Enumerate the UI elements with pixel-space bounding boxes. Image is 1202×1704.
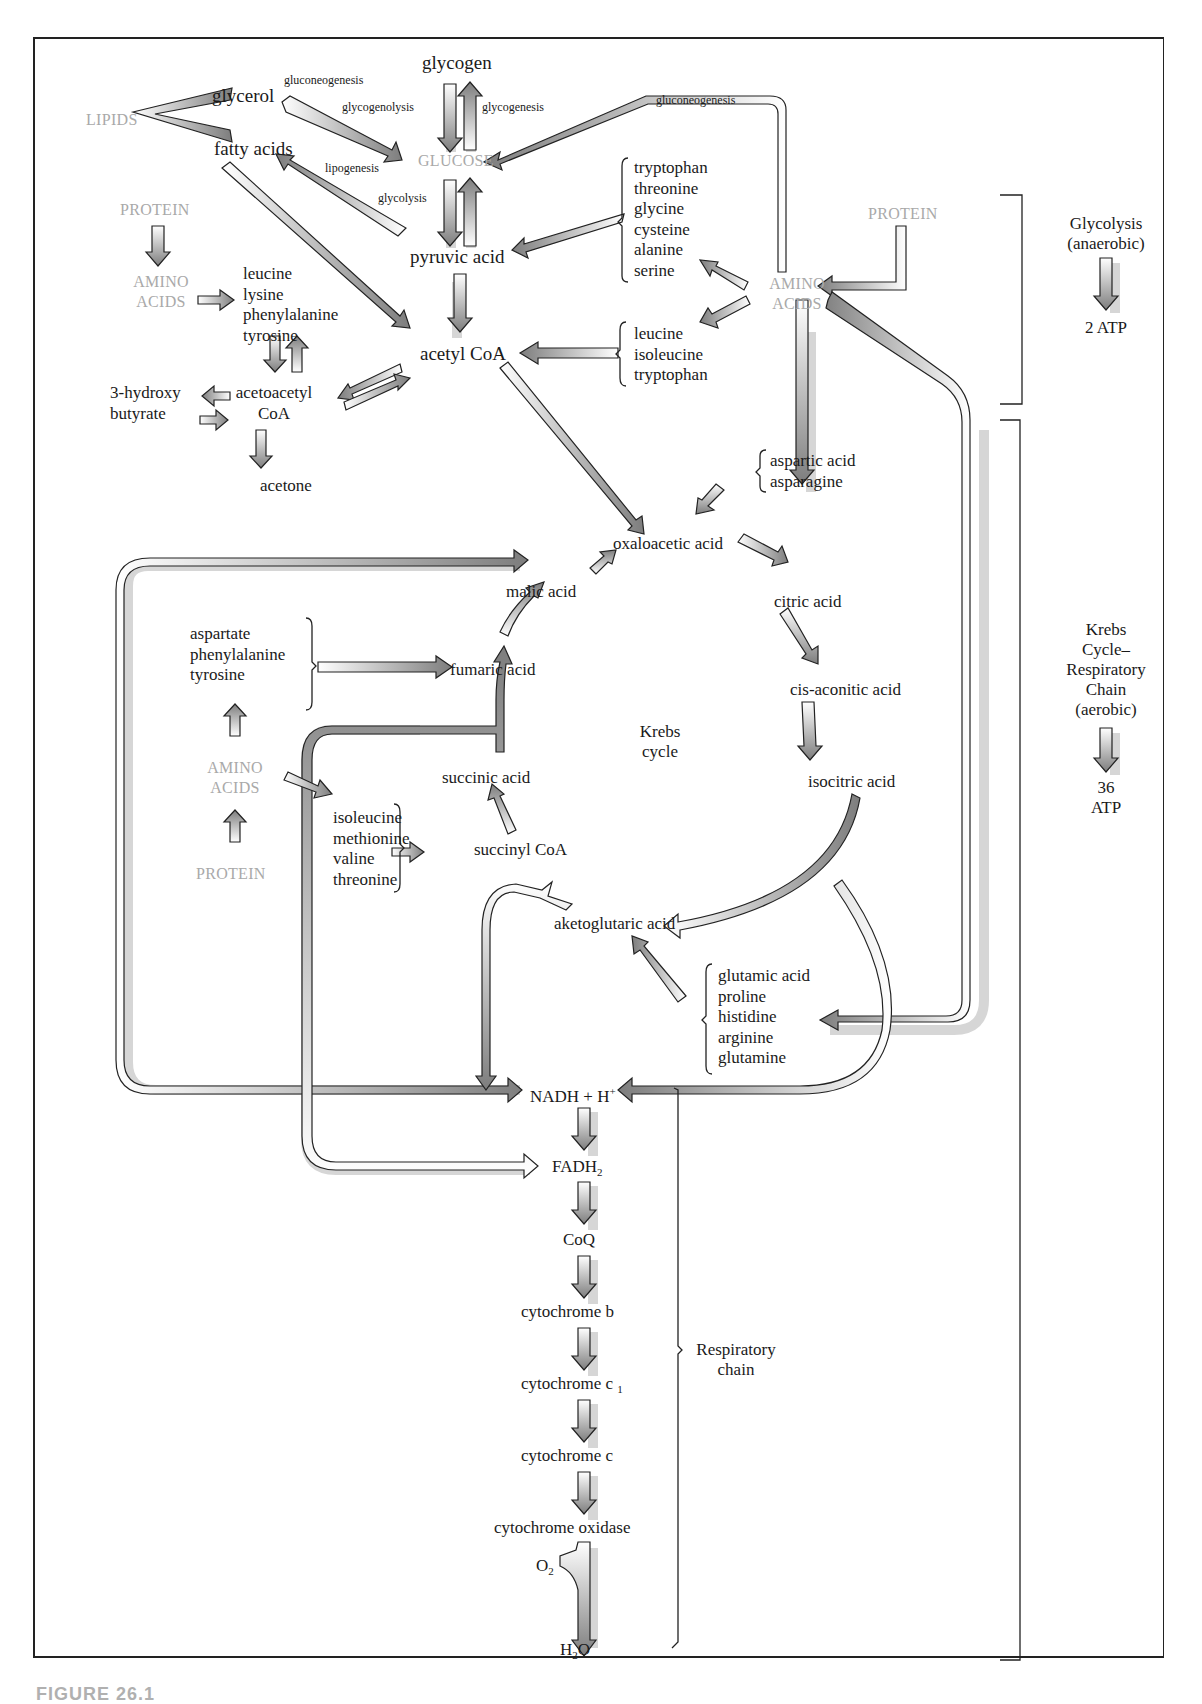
figure-caption: FIGURE 26.1 bbox=[36, 1684, 155, 1704]
fumaric-acid-label: fumaric acid bbox=[450, 660, 535, 680]
fatty-acids-label: fatty acids bbox=[214, 138, 293, 160]
gluconeogenesis-glycerol-label: gluconeogenesis bbox=[284, 73, 363, 87]
succinyl-coa-label: succinyl CoA bbox=[474, 840, 567, 860]
oxaloacetic-acid-label: oxaloacetic acid bbox=[613, 534, 723, 554]
oxidase-to-water-arrow bbox=[560, 1542, 596, 1656]
glycolysis-yield: 2 ATP bbox=[1066, 318, 1146, 338]
outer-loop-arrow bbox=[116, 550, 528, 1102]
cytochrome-c1-label: cytochrome c 1 bbox=[521, 1374, 623, 1399]
amino-acids-top-right: AMINO ACIDS bbox=[762, 274, 832, 314]
amino-group-to-ketoglutarate: glutamic acid proline histidine arginine… bbox=[718, 966, 810, 1069]
acetone-label: acetone bbox=[260, 476, 312, 496]
glycerol-label: glycerol bbox=[212, 85, 274, 107]
o2-label: O2 bbox=[536, 1556, 554, 1581]
glycogen-label: glycogen bbox=[422, 52, 492, 74]
pyruvic-acid-label: pyruvic acid bbox=[410, 246, 504, 268]
aerobic-bracket bbox=[1000, 420, 1020, 1660]
respiratory-chain-bracket-label: Respiratory chain bbox=[686, 1340, 786, 1380]
amino-group-to-succinyl-coa: isoleucine methionine valine threonine bbox=[333, 808, 409, 890]
respiratory-bracket bbox=[672, 1088, 682, 1648]
fadh-loop-arrow bbox=[302, 646, 538, 1178]
glucose-label: GLUCOSE bbox=[418, 151, 494, 171]
glycogenolysis-label: glycogenolysis bbox=[342, 100, 414, 114]
nadh-label: NADH + H+ bbox=[530, 1081, 616, 1107]
cis-aconitic-acid-label: cis-aconitic acid bbox=[790, 680, 901, 700]
acetyl-coa-label: acetyl CoA bbox=[420, 343, 506, 365]
glycolysis-summary: Glycolysis (anaerobic) bbox=[1046, 214, 1166, 254]
cytochrome-b-label: cytochrome b bbox=[521, 1302, 614, 1322]
krebs-cycle-center-label: Krebs cycle bbox=[625, 722, 695, 762]
citric-acid-label: citric acid bbox=[774, 592, 842, 612]
glycogenesis-arrow bbox=[458, 82, 482, 150]
acetoacetyl-coa-label: acetoacetyl CoA bbox=[234, 383, 314, 424]
glycogenesis-label: glycogenesis bbox=[482, 100, 544, 114]
glycogenolysis-arrow bbox=[438, 84, 462, 152]
h2o-label: H2O bbox=[560, 1640, 590, 1665]
amino-group-to-oxaloacetate: aspartic acid asparagine bbox=[770, 451, 855, 492]
ketogenic-amino-group: leucine lysine phenylalanine tyrosine bbox=[243, 264, 338, 346]
protein-top-left-label: PROTEIN bbox=[120, 200, 190, 220]
lipids-label: LIPIDS bbox=[86, 110, 138, 130]
amino-acids-mid-left: AMINO ACIDS bbox=[200, 758, 270, 798]
hydroxybutyrate-label: 3-hydroxy butyrate bbox=[110, 383, 181, 424]
protein-mid-left-label: PROTEIN bbox=[196, 864, 266, 884]
cytochrome-oxidase-label: cytochrome oxidase bbox=[494, 1518, 630, 1538]
ketoglutaric-acid-label: aketoglutaric acid bbox=[554, 914, 675, 934]
amino-acids-top-left: AMINO ACIDS bbox=[126, 272, 196, 312]
cytochrome-c-label: cytochrome c bbox=[521, 1446, 613, 1466]
fadh2-label: FADH2 bbox=[552, 1157, 603, 1182]
amino-group-to-acetyl-coa: leucine isoleucine tryptophan bbox=[634, 324, 708, 386]
amino-group-to-fumarate: aspartate phenylalanine tyrosine bbox=[190, 624, 285, 686]
succinic-acid-label: succinic acid bbox=[442, 768, 530, 788]
malic-acid-label: malic acid bbox=[506, 582, 576, 602]
glycolysis-label: glycolysis bbox=[378, 191, 427, 205]
glycolysis-arrow bbox=[438, 180, 462, 246]
lipogenesis-label: lipogenesis bbox=[325, 161, 379, 175]
aerobic-summary: Krebs Cycle– Respiratory Chain (aerobic) bbox=[1040, 620, 1172, 720]
aerobic-yield: 36 ATP bbox=[1066, 778, 1146, 818]
glycolysis-bracket bbox=[1000, 195, 1022, 404]
protein-top-right-label: PROTEIN bbox=[868, 204, 938, 224]
isocitric-acid-label: isocitric acid bbox=[808, 772, 895, 792]
gluconeogenesis-amino-label: gluconeogenesis bbox=[656, 93, 735, 107]
coq-label: CoQ bbox=[563, 1230, 595, 1250]
amino-group-to-pyruvate: tryptophan threonine glycine cysteine al… bbox=[634, 158, 708, 281]
